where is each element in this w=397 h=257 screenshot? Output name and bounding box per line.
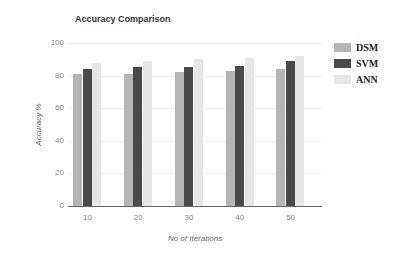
bar-svm-10[interactable] — [83, 69, 92, 206]
bar-ann-10[interactable] — [92, 63, 101, 206]
legend-item-svm[interactable]: SVM — [334, 55, 378, 71]
legend-swatch-dsm — [334, 43, 351, 52]
bar-svm-50[interactable] — [286, 61, 295, 206]
y-tick-label: 0 — [36, 201, 64, 210]
bar-dsm-40[interactable] — [226, 71, 235, 206]
legend-swatch-ann — [334, 75, 351, 84]
y-tick-label: 20 — [36, 168, 64, 177]
legend-item-ann[interactable]: ANN — [334, 71, 378, 87]
y-tick-label: 60 — [36, 103, 64, 112]
bar-svm-20[interactable] — [133, 67, 142, 206]
legend-label-svm: SVM — [356, 58, 378, 69]
x-axis-line — [68, 206, 322, 207]
chart-title: Accuracy Comparison — [75, 14, 171, 24]
bar-ann-50[interactable] — [295, 56, 304, 206]
y-tick-label: 40 — [36, 136, 64, 145]
gridline — [68, 43, 322, 44]
x-tick-label: 10 — [72, 213, 102, 222]
plot-area — [68, 43, 322, 206]
bar-svm-40[interactable] — [235, 66, 244, 206]
legend-label-ann: ANN — [356, 74, 378, 85]
y-tick-label: 100 — [36, 38, 64, 47]
bar-ann-20[interactable] — [143, 61, 152, 206]
bar-dsm-20[interactable] — [124, 74, 133, 206]
bar-dsm-30[interactable] — [175, 72, 184, 206]
x-tick-label: 50 — [276, 213, 306, 222]
y-tick-label: 80 — [36, 71, 64, 80]
bar-ann-30[interactable] — [194, 59, 203, 206]
legend-item-dsm[interactable]: DSM — [334, 39, 378, 55]
x-tick-label: 40 — [225, 213, 255, 222]
bar-svm-30[interactable] — [184, 67, 193, 206]
legend: DSM SVM ANN — [334, 39, 378, 87]
bar-dsm-50[interactable] — [276, 69, 285, 206]
x-axis-label: No of Iterations — [68, 234, 322, 243]
x-tick-label: 30 — [174, 213, 204, 222]
legend-swatch-svm — [334, 59, 351, 68]
bar-ann-40[interactable] — [245, 58, 254, 206]
bar-dsm-10[interactable] — [73, 74, 82, 206]
x-tick-label: 20 — [123, 213, 153, 222]
legend-label-dsm: DSM — [356, 42, 378, 53]
